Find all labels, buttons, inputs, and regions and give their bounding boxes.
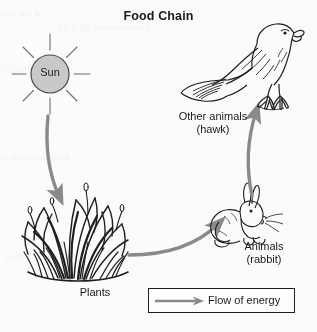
plants-label: Plants [57, 286, 133, 299]
arrow-sun-to-plants [47, 116, 59, 196]
rabbit-label-main: Animals [244, 240, 283, 252]
hawk-icon [181, 24, 304, 110]
legend-label: Flow of energy [208, 294, 280, 306]
right-arrow-icon [155, 295, 205, 307]
hawk-label-main: Other animals [179, 110, 247, 122]
hawk-label-sub: (hawk) [161, 123, 265, 136]
rabbit-label: Animals (rabbit) [226, 240, 302, 266]
diagram-title: Food Chain [0, 9, 317, 24]
arrow-plants-to-rabbit [129, 224, 218, 255]
plants-icon [22, 183, 128, 281]
rabbit-label-sub: (rabbit) [226, 253, 302, 266]
legend-box: Flow of energy [148, 288, 295, 313]
rabbit-icon [211, 183, 283, 247]
diagram-canvas [0, 0, 317, 332]
food-chain-diagram: a tap water ang labile naramdaman ng mga… [0, 0, 317, 332]
hawk-label: Other animals (hawk) [161, 110, 265, 136]
sun-label: Sun [31, 66, 69, 79]
